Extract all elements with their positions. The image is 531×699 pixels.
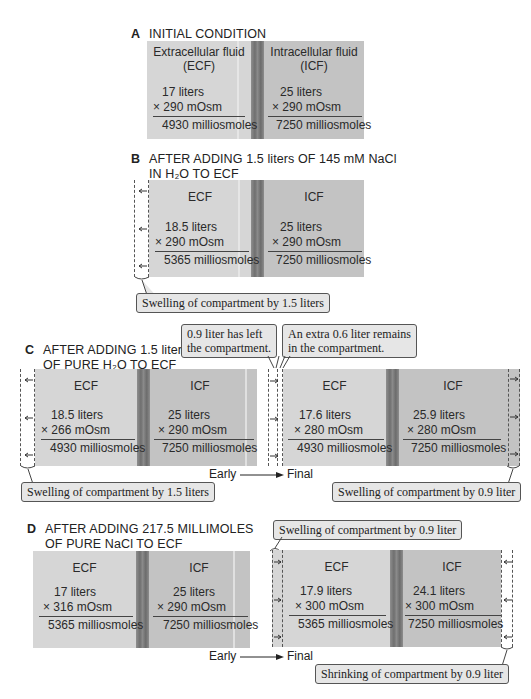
icf-calculation: 25 liters × 290 mOsm 7250 milliosmoles (153, 585, 248, 633)
cell-membrane (136, 551, 149, 648)
ecf-calculation: 18.5 liters × 290 mOsm 5365 milliosmoles (155, 220, 249, 268)
panel-letter: D (27, 522, 45, 537)
panel-b-diagram: ECF ICF 18.5 liters × 290 mOsm 5365 mill… (134, 180, 364, 277)
ecf-calculation: 17 liters × 316 mOsm 5365 milliosmoles (39, 585, 133, 633)
icf-calculation: 24.1 liters × 300 mOsm 7250 milliosmoles (405, 584, 501, 632)
swelling-callout: Swelling of compartment by 0.9 liter (332, 482, 521, 502)
icf-volume: 25.9 liters (403, 408, 501, 423)
panel-title-line1: AFTER ADDING 217.5 MILLIMOLES (45, 522, 254, 536)
inward-arrows-icon (22, 369, 36, 466)
icf-calculation: 25 liters × 290 mOsm 7250 milliosmoles (154, 408, 254, 456)
icf-label-line1: Intracellular fluid (264, 45, 364, 59)
panel-letter: A (131, 27, 149, 42)
panel-c-early-diagram: ECF ICF 18.5 liters × 266 mOsm 4930 mill… (20, 369, 257, 466)
ecf-label: ECF (35, 379, 137, 393)
ecf-osmolarity: × 290 mOsm (155, 235, 249, 250)
panel-letter: C (25, 343, 43, 358)
panel-c-final-diagram: ECF ICF 17.6 liters × 280 mOsm 4930 mill… (268, 369, 520, 466)
panel-letter: B (131, 152, 149, 167)
callout-pointer-icon (270, 537, 290, 551)
ecf-calculation: 18.5 liters × 266 mOsm 4930 milliosmoles (41, 408, 135, 456)
ecf-label: Extracellular fluid (ECF) (147, 45, 251, 73)
ecf-volume: 17.6 liters (288, 408, 384, 423)
icf-label-line2: (ICF) (264, 59, 364, 73)
panel-title-line1: AFTER ADDING 1.5 liters OF 145 mM NaCl (149, 152, 397, 166)
icf-total: 7250 milliosmoles (403, 441, 501, 456)
icf-volume: 25 liters (268, 220, 362, 235)
icf-calculation: 25.9 liters × 280 mOsm 7250 milliosmoles (403, 408, 501, 456)
ecf-osmolarity: × 316 mOsm (39, 600, 133, 615)
water-remains-callout: An extra 0.6 liter remains in the compar… (282, 324, 417, 358)
ecf-label-line2: (ECF) (147, 59, 251, 73)
icf-label: ICF (149, 561, 249, 575)
outward-arrows-icon (509, 369, 521, 466)
icf-label: ICF (403, 560, 501, 574)
water-left-callout: 0.9 liter has left the compartment. (181, 324, 277, 358)
arrow-right-icon (240, 652, 285, 662)
icf-osmolarity: × 290 mOsm (153, 600, 248, 615)
icf-volume: 25 liters (153, 585, 248, 600)
inward-arrows-icon (502, 550, 514, 647)
ecf-volume: 18.5 liters (155, 220, 249, 235)
ecf-label: ECF (283, 560, 390, 574)
icf-volume: 25 liters (154, 408, 254, 423)
icf-total: 7250 milliosmoles (405, 617, 501, 632)
arrow-right-icon (240, 470, 285, 480)
ecf-total: 5365 milliosmoles (39, 618, 133, 633)
ecf-osmolarity: × 300 mOsm (289, 599, 386, 614)
panel-d-heading: DAFTER ADDING 217.5 MILLIMOLES OF PURE N… (27, 522, 254, 552)
panel-title: INITIAL CONDITION (149, 27, 266, 41)
swelling-callout: Swelling of compartment by 1.5 liters (21, 482, 215, 502)
panel-title-line2: OF PURE NaCl TO ECF (27, 537, 254, 552)
icf-label: ICF (150, 379, 250, 393)
shrinking-callout: Shrinking of compartment by 0.9 liter (315, 664, 509, 684)
icf-label: Intracellular fluid (ICF) (264, 45, 364, 73)
ecf-osmolarity: × 266 mOsm (41, 423, 135, 438)
final-label: Final (287, 649, 313, 663)
panel-b-heading: BAFTER ADDING 1.5 liters OF 145 mM NaCl … (131, 152, 397, 182)
ecf-label-line1: Extracellular fluid (147, 45, 251, 59)
icf-volume: 25 liters (268, 85, 362, 100)
panel-d-final-diagram: ECF ICF 17.9 liters × 300 mOsm 5365 mill… (272, 550, 513, 647)
panel-a-heading: AINITIAL CONDITION (131, 27, 266, 42)
icf-osmolarity: × 300 mOsm (405, 599, 501, 614)
icf-total: 7250 milliosmoles (153, 618, 248, 633)
ecf-total: 4930 milliosmoles (153, 118, 245, 133)
ecf-volume: 17 liters (39, 585, 133, 600)
icf-osmolarity: × 280 mOsm (403, 423, 501, 438)
panel-title-line1: AFTER ADDING 1.5 liters (43, 343, 188, 357)
callout-line1: 0.9 liter has left (187, 327, 271, 341)
callout-line2: the compartment. (187, 341, 271, 355)
icf-osmolarity: × 290 mOsm (268, 100, 362, 115)
ecf-calculation: 17 liters × 290 mOsm 4930 milliosmoles (153, 85, 245, 133)
swelling-callout: Swelling of compartment by 0.9 liter (273, 520, 462, 540)
ecf-calculation: 17.9 liters × 300 mOsm 5365 milliosmoles (289, 584, 386, 632)
icf-label: ICF (264, 190, 364, 204)
panel-a-diagram: Extracellular fluid (ECF) Intracellular … (147, 41, 364, 139)
outward-arrows-icon (273, 550, 283, 647)
callout-line1: An extra 0.6 liter remains (288, 327, 411, 341)
ecf-label: ECF (149, 190, 251, 204)
cell-membrane (390, 550, 403, 647)
ecf-total: 5365 milliosmoles (155, 253, 249, 268)
icf-total: 7250 milliosmoles (268, 253, 362, 268)
icf-calculation: 25 liters × 290 mOsm 7250 milliosmoles (268, 85, 362, 133)
icf-volume: 24.1 liters (405, 584, 501, 599)
final-label: Final (287, 467, 313, 481)
callout-pointers-icon (265, 356, 295, 370)
ecf-label: ECF (33, 561, 136, 575)
ecf-total: 5365 milliosmoles (289, 617, 386, 632)
inward-arrows-icon (136, 180, 150, 277)
swelling-callout: Swelling of compartment by 1.5 liters (136, 293, 330, 313)
ecf-total: 4930 milliosmoles (288, 441, 384, 456)
icf-label: ICF (399, 379, 507, 393)
panel-d-early-diagram: ECF ICF 17 liters × 316 mOsm 5365 millio… (33, 551, 250, 648)
ecf-total: 4930 milliosmoles (41, 441, 135, 456)
ecf-osmolarity: × 280 mOsm (288, 423, 384, 438)
icf-total: 7250 milliosmoles (268, 118, 362, 133)
icf-total: 7250 milliosmoles (154, 441, 254, 456)
outward-arrows-icon (269, 369, 281, 466)
icf-osmolarity: × 290 mOsm (154, 423, 254, 438)
icf-osmolarity: × 290 mOsm (268, 235, 362, 250)
ecf-calculation: 17.6 liters × 280 mOsm 4930 milliosmoles (288, 408, 384, 456)
